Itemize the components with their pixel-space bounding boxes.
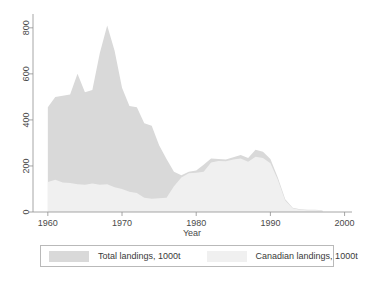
legend-label-canadian: Canadian landings, 1000t <box>256 251 358 261</box>
x-tick-label: 1990 <box>260 218 280 228</box>
x-tick-label: 1970 <box>112 218 132 228</box>
y-tick-label: 600 <box>21 66 31 81</box>
legend-entry-total[interactable]: Total landings, 1000t <box>49 251 181 262</box>
legend-label-total: Total landings, 1000t <box>98 251 181 261</box>
chart-svg: 020040060080019601970198019902000 Year <box>0 0 373 240</box>
chart-figure: 020040060080019601970198019902000 Year T… <box>0 0 373 281</box>
y-tick-label: 800 <box>21 20 31 35</box>
x-tick-label: 1980 <box>186 218 206 228</box>
legend-swatch-canadian <box>207 251 247 262</box>
legend-swatch-total <box>49 251 89 262</box>
chart-legend: Total landings, 1000t Canadian landings,… <box>40 245 334 267</box>
x-tick-label: 2000 <box>335 218 355 228</box>
legend-entry-canadian[interactable]: Canadian landings, 1000t <box>207 251 358 262</box>
y-tick-label: 400 <box>21 112 31 127</box>
x-axis-title: Year <box>183 228 201 238</box>
y-tick-label: 200 <box>21 158 31 173</box>
y-tick-label: 0 <box>21 209 31 214</box>
x-tick-label: 1960 <box>38 218 58 228</box>
plot-area: 020040060080019601970198019902000 Year <box>0 0 373 240</box>
series-layer <box>48 26 322 212</box>
